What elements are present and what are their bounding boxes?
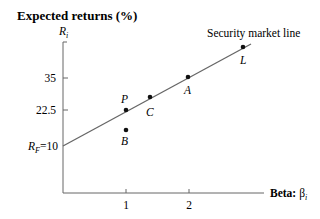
x-tick-label-1: 1 (123, 199, 129, 211)
point-label-p: P (120, 93, 128, 105)
point-label-l: L (239, 54, 246, 66)
security-market-line (63, 44, 251, 146)
point-a (186, 75, 191, 80)
point-l (241, 45, 246, 50)
point-c (148, 95, 153, 100)
y-tick-label-22-5: 22.5 (36, 104, 56, 116)
y-axis-symbol: Ri (58, 25, 68, 40)
x-axis-title: Beta:βi (270, 187, 307, 202)
point-label-b: B (121, 135, 128, 147)
sml-chart: Expected returns (%) Ri 35 22.5 RF=10 1 … (0, 0, 320, 219)
point-label-a: A (183, 84, 192, 96)
point-label-c: C (146, 106, 154, 118)
y-tick-label-35: 35 (45, 72, 57, 84)
sml-label: Security market line (207, 27, 300, 40)
y-axis-title: Expected returns (%) (17, 8, 137, 23)
x-tick-label-2: 2 (186, 199, 192, 211)
risk-free-label: RF=10 (27, 140, 58, 155)
point-p (124, 108, 129, 113)
point-b (124, 128, 129, 133)
